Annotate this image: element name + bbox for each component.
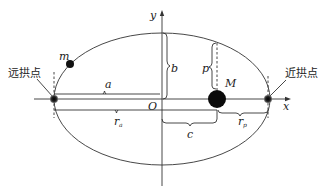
rp-label: r p bbox=[238, 115, 247, 129]
svg-text:a: a bbox=[119, 121, 123, 128]
origin-label: O bbox=[148, 100, 157, 113]
x-axis-label: x bbox=[283, 100, 290, 113]
perihelion-point bbox=[264, 95, 272, 103]
m-label: m bbox=[59, 50, 69, 63]
p-brace bbox=[209, 43, 216, 89]
x-axis bbox=[34, 97, 291, 101]
aphelion-point bbox=[50, 95, 58, 103]
M-label: M bbox=[224, 77, 237, 90]
b-label: b bbox=[171, 62, 178, 75]
svg-text:p: p bbox=[243, 121, 247, 129]
b-brace bbox=[163, 33, 170, 99]
c-label: c bbox=[187, 128, 193, 141]
c-brace bbox=[162, 110, 217, 126]
y-axis-label: y bbox=[149, 9, 157, 22]
y-axis-arrow-icon bbox=[160, 10, 164, 16]
perihelion-label: 近拱点 bbox=[285, 66, 318, 80]
ra-brace bbox=[54, 110, 217, 113]
p-label: p bbox=[202, 62, 209, 75]
y-axis bbox=[160, 10, 164, 186]
a-brace bbox=[54, 91, 160, 94]
perihelion-leader bbox=[270, 80, 286, 96]
aphelion-leader bbox=[37, 79, 53, 97]
central-body-M bbox=[208, 90, 226, 108]
orbit-diagram: y x O 远拱点 近拱点 M m a b p c r a r p bbox=[0, 0, 324, 192]
aphelion-label: 远拱点 bbox=[8, 66, 41, 80]
a-label: a bbox=[105, 78, 112, 91]
ra-label: r a bbox=[114, 115, 123, 128]
